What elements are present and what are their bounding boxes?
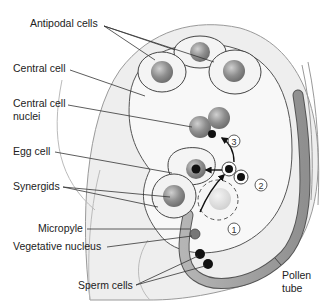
label-antipodal-cells: Antipodal cells — [30, 17, 98, 29]
label-pollen-tube-line2: tube — [282, 282, 303, 294]
label-synergids: Synergids — [13, 180, 60, 192]
step-1-label: 1 — [231, 225, 236, 235]
label-central-cell: Central cell — [13, 62, 66, 74]
label-micropyle: Micropyle — [38, 222, 83, 234]
step-2-label: 2 — [258, 181, 263, 191]
step-3-label: 3 — [231, 137, 236, 147]
label-pollen-tube-line1: Pollen — [282, 269, 311, 281]
label-vegetative-nucleus: Vegetative nucleus — [13, 240, 101, 252]
label-egg-cell: Egg cell — [13, 145, 50, 157]
label-sperm-cells: Sperm cells — [78, 279, 133, 291]
double-fertilization-diagram: 3 2 1 Antipodal cells Central cell Centr… — [0, 0, 333, 304]
label-central-cell-nuclei-line1: Central cell — [13, 97, 66, 109]
label-central-cell-nuclei-line2: nuclei — [13, 110, 40, 122]
